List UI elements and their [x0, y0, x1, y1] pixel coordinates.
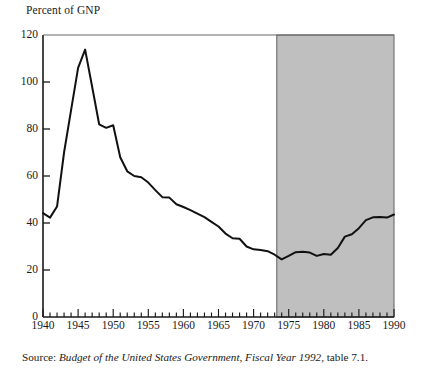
- source-title: Budget of the United States Government, …: [59, 351, 321, 363]
- x-tick-label: 1985: [347, 320, 370, 332]
- x-tick-label: 1980: [312, 320, 335, 332]
- x-tick-label: 1945: [67, 320, 90, 332]
- y-tick-label: 40: [4, 217, 38, 229]
- x-tick-label: 1960: [172, 320, 195, 332]
- y-tick-label: 60: [4, 170, 38, 182]
- y-tick-label: 100: [4, 76, 38, 88]
- source-note: Source: Budget of the United States Gove…: [22, 350, 368, 364]
- figure-container: Percent of GNP 020406080100120 194019451…: [0, 0, 422, 378]
- x-tick-label: 1970: [242, 320, 265, 332]
- y-tick-label: 120: [4, 29, 38, 41]
- x-tick-label: 1975: [277, 320, 300, 332]
- x-axis-tick-labels: 1940194519501955196019651970197519801985…: [0, 320, 422, 336]
- x-tick-label: 1955: [137, 320, 160, 332]
- x-tick-label: 1965: [207, 320, 230, 332]
- x-tick-label: 1950: [102, 320, 125, 332]
- x-tick-label: 1940: [32, 320, 55, 332]
- y-tick-label: 20: [4, 264, 38, 276]
- source-label: Source:: [22, 351, 59, 363]
- shaded-region-rect: [277, 35, 394, 317]
- x-tick-label: 1990: [383, 320, 406, 332]
- shaded-region-group: [277, 35, 394, 317]
- source-tail: , table 7.1.: [321, 351, 368, 363]
- y-tick-label: 80: [4, 123, 38, 135]
